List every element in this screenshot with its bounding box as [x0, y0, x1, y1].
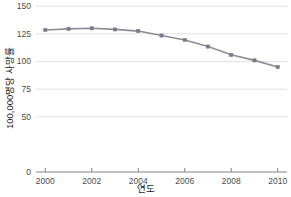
- y-axis-tick-labels: 05075100125150: [17, 1, 31, 177]
- x-axis-label: 연도: [0, 181, 291, 195]
- y-tick-label-100: 100: [17, 56, 31, 66]
- data-point-2009: [253, 59, 256, 62]
- data-point-2001: [67, 27, 70, 30]
- data-point-2008: [230, 53, 233, 56]
- y-axis-label: 100,000명당 사망률: [0, 0, 18, 175]
- data-point-2000: [44, 28, 47, 31]
- data-point-2006: [183, 38, 186, 41]
- data-point-2005: [160, 34, 163, 37]
- data-point-markers: [44, 27, 280, 69]
- data-point-2010: [276, 65, 279, 68]
- gridlines-group: [36, 6, 287, 117]
- data-point-2002: [90, 27, 93, 30]
- y-tick-label-125: 125: [17, 29, 31, 39]
- data-point-2007: [206, 45, 209, 48]
- data-point-2004: [137, 29, 140, 32]
- y-tick-label-75: 75: [22, 84, 32, 94]
- y-axis-label-text: 100,000명당 사망률: [2, 47, 16, 129]
- y-tick-label-50: 50: [22, 112, 32, 122]
- chart-container: 05075100125150 200020022004200620082010 …: [0, 0, 291, 197]
- data-point-2003: [113, 28, 116, 31]
- line-chart-plot: 05075100125150 200020022004200620082010: [0, 0, 291, 197]
- y-tick-label-150: 150: [17, 1, 31, 11]
- y-tick-label-0: 0: [26, 167, 31, 177]
